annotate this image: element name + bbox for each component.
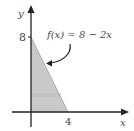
shade-band bbox=[31, 93, 61, 97]
y-tick-label: 8 bbox=[19, 31, 26, 44]
y-axis-label: y bbox=[17, 8, 24, 19]
x-axis-arrow-icon bbox=[121, 109, 129, 116]
x-axis-label: x bbox=[120, 117, 126, 128]
annotation-arrow bbox=[50, 44, 70, 63]
annotation-arrowhead-icon bbox=[46, 60, 52, 67]
area-under-line-diagram: y 8 4 x f(x) = 8 − 2x bbox=[0, 0, 134, 131]
y-axis-arrow-icon bbox=[28, 5, 35, 13]
function-label: f(x) = 8 − 2x bbox=[46, 29, 112, 40]
x-tick-label: 4 bbox=[65, 116, 71, 127]
